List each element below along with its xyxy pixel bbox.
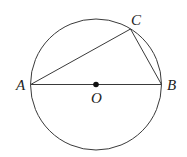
center-point-o: [93, 82, 99, 88]
label-o: O: [91, 90, 102, 106]
circle-diagram: A B C O: [0, 0, 187, 157]
label-c: C: [131, 12, 142, 28]
chord-cb: [131, 29, 162, 85]
label-a: A: [15, 77, 26, 93]
label-b: B: [167, 77, 176, 93]
chord-ac: [31, 29, 131, 85]
